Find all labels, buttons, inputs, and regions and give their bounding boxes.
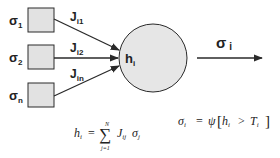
svg-text:=: =	[88, 126, 95, 140]
svg-text:ψ: ψ	[208, 114, 216, 128]
svg-text:Ti: Ti	[250, 114, 259, 129]
svg-text:∑: ∑	[99, 125, 111, 144]
weight-label-2: Ji2	[70, 41, 84, 57]
svg-text:Jij: Jij	[117, 126, 126, 141]
weight-label-1: Ji1	[70, 10, 84, 26]
svg-text:hi: hi	[74, 126, 82, 141]
connection-arrow-n	[54, 66, 119, 96]
svg-text:>: >	[238, 114, 245, 128]
input-label-2: σ2	[9, 50, 23, 67]
output-label: σi	[216, 34, 232, 52]
svg-text:hi: hi	[222, 114, 230, 129]
neuron-diagram: σ1 σ2 σn Ji1 Ji2 Jin hi σi σi = ψ [ hi >…	[0, 0, 280, 158]
input-label-1: σ1	[9, 13, 23, 30]
input-box-2	[28, 45, 54, 69]
svg-text:=: =	[196, 114, 203, 128]
activation-equation: σi = ψ [ hi > Ti ]	[178, 113, 270, 129]
svg-text:σj: σj	[132, 126, 140, 141]
sum-equation: hi = ∑ N j=1 Jij σj	[74, 121, 140, 151]
input-box-1	[28, 8, 54, 32]
svg-text:σi: σi	[178, 114, 186, 129]
svg-text:j=1: j=1	[100, 145, 110, 151]
svg-text:]: ]	[265, 113, 270, 129]
connection-arrow-1	[54, 19, 119, 50]
input-box-n	[28, 83, 54, 107]
input-label-n: σn	[9, 88, 23, 105]
weight-label-n: Jin	[70, 67, 84, 83]
